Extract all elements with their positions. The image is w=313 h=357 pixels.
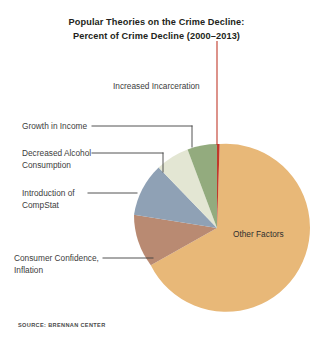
callout-label-decreased-alcohol-consumption: Decreased Alcohol Consumption: [22, 148, 91, 171]
pie-chart-figure: Popular Theories on the Crime Decline: P…: [0, 0, 313, 357]
callout-label-introduction-of-compstat: Introduction of CompStat: [22, 188, 75, 211]
source-note: SOURCE: BRENNAN CENTER: [18, 322, 106, 328]
callout-label-consumer-confidence-inflation: Consumer Confidence, Inflation: [14, 253, 99, 276]
callout-label-increased-incarceration: Increased Incarceration: [113, 81, 200, 93]
pie-slices: [134, 144, 310, 312]
pie-chart-graphic: [0, 0, 313, 357]
callout-label-growth-in-income: Growth in Income: [22, 121, 87, 133]
slice-label-other-factors: Other Factors: [233, 229, 284, 239]
